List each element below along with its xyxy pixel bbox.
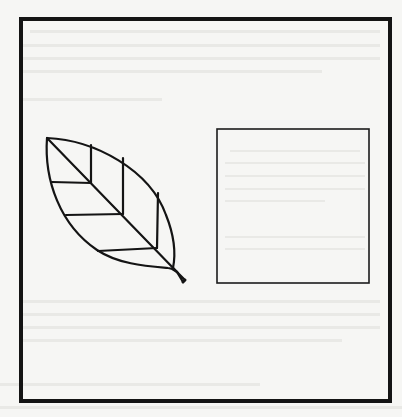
leaf-vein-3-left	[98, 248, 157, 251]
leaf-vein-2-left	[66, 214, 123, 215]
leaf-vein-3-up	[157, 193, 158, 248]
leaf-vein-1-left	[52, 182, 91, 183]
empty-square	[217, 129, 369, 283]
leaf-drawing	[47, 138, 185, 282]
scanned-page	[0, 0, 402, 417]
leaf-stem-tip	[183, 280, 185, 282]
diagram	[0, 0, 402, 417]
